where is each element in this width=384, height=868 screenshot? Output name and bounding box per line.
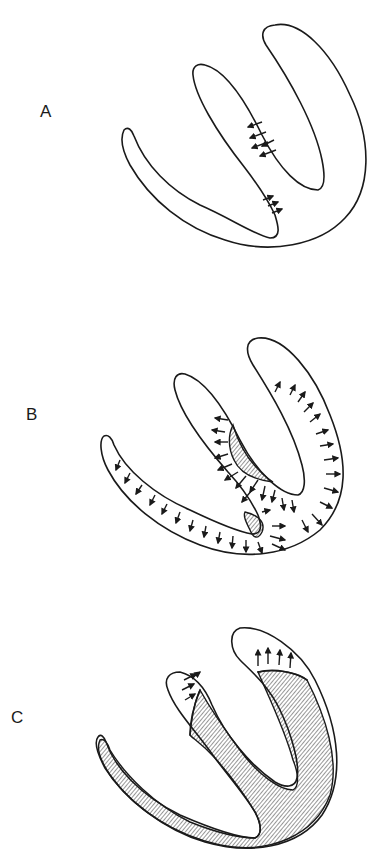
panel-b: B [0, 290, 384, 590]
panel-c: C [0, 590, 384, 868]
panel-a: A [0, 0, 384, 290]
heart-diagram-b [0, 290, 384, 590]
heart-diagram-c [0, 590, 384, 868]
heart-diagram-a [0, 0, 384, 290]
septum-arrows-upper [248, 122, 276, 156]
